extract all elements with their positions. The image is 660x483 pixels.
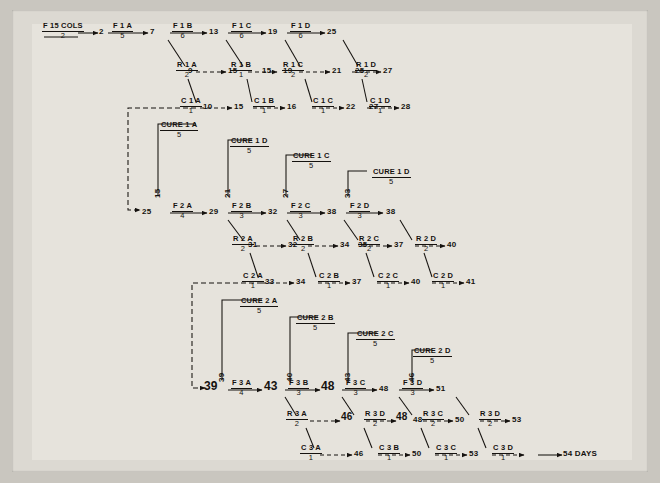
activity-r1d[interactable]: R 1 D 2 — [355, 61, 377, 79]
activity-c1c[interactable]: C 1 C 1 — [312, 97, 334, 115]
activity-c1d[interactable]: C 1 D 1 — [369, 97, 391, 115]
activity-f2a-duration: 4 — [172, 212, 193, 220]
activity-c3d[interactable]: C 3 D 1 — [492, 444, 514, 462]
node-13[interactable]: 13 — [209, 28, 218, 36]
activity-r2c[interactable]: R 2 C 2 — [358, 235, 380, 253]
activity-c2c[interactable]: C 2 C 1 — [377, 272, 399, 290]
node-19b[interactable]: 19 — [283, 67, 292, 75]
activity-c3b-duration: 1 — [378, 454, 400, 462]
node-19[interactable]: 19 — [268, 28, 277, 36]
node-34b[interactable]: 34 — [296, 278, 305, 286]
node-43[interactable]: 43 — [264, 382, 278, 390]
activity-cure1c[interactable]: CURE 1 C 5 — [292, 152, 331, 170]
activity-r2b[interactable]: R 2 B 2 — [292, 235, 314, 253]
node-27[interactable]: 27 — [383, 67, 392, 75]
node-15b[interactable]: 15 — [262, 67, 271, 75]
node-33[interactable]: 33 — [265, 278, 274, 286]
activity-f2d-duration: 3 — [349, 212, 370, 220]
activity-r1b[interactable]: R 1 B 1 — [230, 61, 252, 79]
node-50[interactable]: 50 — [455, 416, 464, 424]
activity-c3c-duration: 1 — [435, 454, 457, 462]
riser-node-33[interactable]: 33 — [344, 189, 352, 198]
riser-node-21[interactable]: 21 — [224, 189, 232, 198]
node-38b[interactable]: 38 — [386, 208, 395, 216]
node-40[interactable]: 40 — [447, 241, 456, 249]
node-37b[interactable]: 37 — [352, 278, 361, 286]
activity-cure1b[interactable]: CURE 1 D 5 — [230, 137, 269, 155]
node-53[interactable]: 53 — [512, 416, 521, 424]
activity-f3b[interactable]: F 3 B 3 — [288, 379, 309, 397]
node-2[interactable]: 2 — [99, 28, 104, 36]
activity-cure2b[interactable]: CURE 2 B 5 — [296, 314, 335, 332]
activity-f3a[interactable]: F 3 A 4 — [231, 379, 252, 397]
activity-cure2a[interactable]: CURE 2 A 5 — [240, 297, 278, 315]
node-21[interactable]: 21 — [332, 67, 341, 75]
activity-r3b[interactable]: R 3 D 2 — [364, 410, 386, 428]
node-38[interactable]: 38 — [327, 208, 336, 216]
node-25[interactable]: 25 — [327, 28, 336, 36]
activity-c3c[interactable]: C 3 C 1 — [435, 444, 457, 462]
node-7[interactable]: 7 — [150, 28, 155, 36]
node-10[interactable]: 10 — [203, 103, 212, 111]
node-25c[interactable]: 25 — [142, 208, 151, 216]
activity-cure2a-duration: 5 — [240, 307, 278, 315]
activity-r1d-duration: 2 — [355, 71, 377, 79]
activity-f1a[interactable]: F 1 A 5 — [112, 22, 133, 40]
node-41[interactable]: 41 — [466, 278, 475, 286]
node-9[interactable]: 9 — [188, 67, 193, 75]
activity-r3d[interactable]: R 3 D 2 — [479, 410, 501, 428]
activity-f15cols[interactable]: F 15 COLS 2 — [42, 22, 84, 40]
node-16[interactable]: 16 — [287, 103, 296, 111]
node-50b[interactable]: 50 — [412, 450, 421, 458]
node-48[interactable]: 48 — [321, 382, 335, 390]
node-51[interactable]: 51 — [436, 385, 445, 393]
activity-r1a[interactable]: R 1 A 2 — [176, 61, 198, 79]
node-28[interactable]: 28 — [401, 103, 410, 111]
activity-cure1d[interactable]: CURE 1 D 5 — [372, 168, 411, 186]
node-34[interactable]: 34 — [340, 241, 349, 249]
node-53b[interactable]: 53 — [469, 450, 478, 458]
node-37[interactable]: 37 — [394, 241, 403, 249]
activity-c1b[interactable]: C 1 B 1 — [253, 97, 275, 115]
node-48d[interactable]: 48 — [413, 416, 422, 424]
activity-r3b-duration: 2 — [364, 420, 386, 428]
riser-node-15[interactable]: 15 — [154, 189, 162, 198]
activity-r3c[interactable]: R 3 C 2 — [422, 410, 444, 428]
node-40b[interactable]: 40 — [411, 278, 420, 286]
activity-f1c[interactable]: F 1 C 6 — [231, 22, 252, 40]
activity-c3b[interactable]: C 3 B 1 — [378, 444, 400, 462]
node-48b[interactable]: 48 — [379, 385, 388, 393]
node-22[interactable]: 22 — [346, 103, 355, 111]
activity-f1b[interactable]: F 1 B 6 — [172, 22, 193, 40]
activity-cure1a[interactable]: CURE 1 A 5 — [160, 121, 198, 139]
activity-cure2c[interactable]: CURE 2 C 5 — [356, 330, 395, 348]
node-48c[interactable]: 48 — [396, 413, 408, 421]
activity-c3a[interactable]: C 3 A 1 — [300, 444, 322, 462]
activity-c2b[interactable]: C 2 B 1 — [318, 272, 340, 290]
riser-node-39[interactable]: 39 — [218, 373, 226, 382]
activity-c1a[interactable]: C 1 A 1 — [180, 97, 202, 115]
node-39[interactable]: 39 — [204, 382, 218, 390]
activity-f3c[interactable]: F 3 C 3 — [345, 379, 366, 397]
node-31[interactable]: 31 — [248, 241, 257, 249]
activity-c1a-duration: 1 — [180, 107, 202, 115]
activity-r3a[interactable]: R 3 A 2 — [286, 410, 308, 428]
node-46[interactable]: 46 — [341, 413, 353, 421]
activity-r2d[interactable]: R 2 D 2 — [415, 235, 437, 253]
activity-f2b[interactable]: F 2 B 3 — [231, 202, 252, 220]
activity-f2d[interactable]: F 2 D 3 — [349, 202, 370, 220]
activity-f3d[interactable]: F 3 D 3 — [402, 379, 423, 397]
activity-c2d[interactable]: C 2 D 1 — [432, 272, 454, 290]
node-15c[interactable]: 15 — [234, 103, 243, 111]
node-29[interactable]: 29 — [209, 208, 218, 216]
activity-f2a[interactable]: F 2 A 4 — [172, 202, 193, 220]
activity-f1d[interactable]: F 1 D 6 — [290, 22, 311, 40]
riser-node-27[interactable]: 27 — [282, 189, 290, 198]
node-46b[interactable]: 46 — [354, 450, 363, 458]
activity-f1c-duration: 6 — [231, 32, 252, 40]
activity-c2b-duration: 1 — [318, 282, 340, 290]
activity-c2a[interactable]: C 2 A 1 — [242, 272, 264, 290]
activity-f2c[interactable]: F 2 C 3 — [290, 202, 311, 220]
activity-cure2d[interactable]: CURE 2 D 5 — [413, 347, 452, 365]
node-32[interactable]: 32 — [268, 208, 277, 216]
